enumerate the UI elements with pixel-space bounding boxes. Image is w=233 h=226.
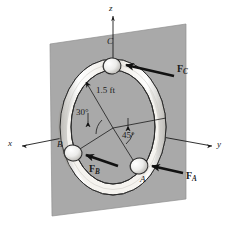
force-label-c: FC xyxy=(177,64,188,76)
axis-label-y: y xyxy=(217,140,221,149)
point-label-c: C xyxy=(107,37,113,46)
axis-label-x: x xyxy=(8,139,12,148)
force-c-subscript: C xyxy=(183,68,188,76)
axis-label-z: z xyxy=(109,4,113,13)
force-label-a: FA xyxy=(186,171,197,183)
ring-diagram-svg xyxy=(0,0,233,226)
force-a-subscript: A xyxy=(192,175,197,183)
angle-30-label: 30° xyxy=(76,108,89,117)
point-label-b: B xyxy=(57,140,63,149)
force-b-subscript: B xyxy=(95,168,100,176)
point-label-a: A xyxy=(140,175,146,184)
force-label-b: FB xyxy=(89,164,100,176)
figure-canvas: z x y C B A FC FB FA 1.5 ft 30° 45° xyxy=(0,0,233,226)
radius-dimension-label: 1.5 ft xyxy=(96,86,115,95)
angle-45-label: 45° xyxy=(122,131,135,140)
